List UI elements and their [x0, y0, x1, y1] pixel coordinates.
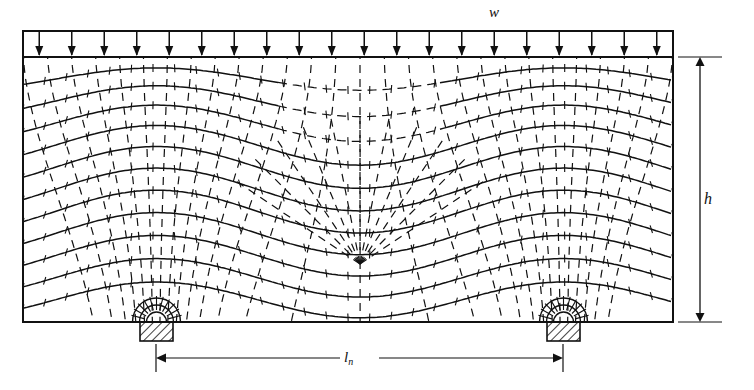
- trajectory-tick: [87, 70, 88, 78]
- trajectory-tick: [196, 213, 198, 221]
- trajectory-tick: [196, 235, 197, 243]
- trajectory-tick: [391, 205, 392, 213]
- trajectory-tick: [109, 237, 111, 245]
- trajectory-tick: [174, 232, 175, 240]
- load-label: w: [489, 4, 499, 21]
- load-arrows: [35, 32, 661, 56]
- trajectory-tick: [586, 144, 587, 152]
- support-arc: [147, 312, 167, 322]
- trajectory-tick: [456, 76, 457, 84]
- trajectory-tick: [174, 210, 175, 218]
- trajectory-tick: [521, 105, 522, 113]
- trajectory-tick: [608, 67, 609, 75]
- trajectory-tick: [607, 147, 609, 155]
- compression-trajectory: [440, 86, 671, 107]
- trajectory-tick: [304, 308, 306, 316]
- trajectory-tick: [326, 291, 327, 299]
- trajectory-tick: [521, 147, 523, 155]
- trajectory-tick: [607, 105, 608, 113]
- trajectory-tick: [326, 159, 327, 167]
- tension-trajectory: [160, 51, 168, 327]
- trajectory-tick: [586, 256, 587, 264]
- tension-trajectory: [23, 51, 95, 329]
- tension-trajectory: [505, 51, 545, 328]
- trajectory-tick: [412, 108, 413, 116]
- trajectory-tick: [109, 260, 111, 268]
- tension-trajectory: [360, 117, 389, 264]
- tension-trajectory: [199, 51, 264, 327]
- stress-trajectory-figure: [0, 0, 754, 390]
- trajectory-tick: [543, 123, 544, 131]
- tension-trajectory: [456, 51, 521, 327]
- trajectory-tick: [174, 143, 175, 151]
- trajectory-tick: [412, 132, 414, 140]
- trajectory-tick: [131, 256, 132, 264]
- trajectory-tick: [521, 126, 523, 134]
- height-dimension: [678, 57, 722, 322]
- load-band: [23, 31, 673, 57]
- trajectory-tick: [109, 106, 111, 114]
- trajectory-tick: [651, 73, 652, 81]
- trajectory-tick: [174, 102, 175, 110]
- trajectory-tick: [391, 85, 392, 93]
- tension-trajectory: [290, 51, 336, 327]
- trajectory-tick: [326, 248, 327, 256]
- trajectory-tick: [196, 125, 197, 133]
- span-subscript: n: [348, 356, 353, 367]
- trajectory-tick: [66, 73, 67, 81]
- trajectory-tick: [282, 79, 283, 87]
- trajectory-tick: [543, 279, 544, 287]
- trajectory-tick: [109, 127, 111, 135]
- trajectory-tick: [413, 83, 414, 91]
- span-label: ln: [344, 349, 353, 367]
- trajectory-tick: [326, 85, 327, 93]
- trajectory-tick: [326, 204, 327, 212]
- trajectory-tick: [217, 88, 219, 96]
- trajectory-tick: [499, 69, 500, 77]
- trajectory-tick: [196, 281, 197, 289]
- tension-trajectory: [216, 51, 288, 329]
- trajectory-tick: [586, 123, 587, 131]
- tension-trajectory: [235, 181, 360, 264]
- trajectory-tick: [131, 233, 132, 241]
- trajectory-tick: [391, 270, 392, 278]
- trajectory-tick: [326, 312, 327, 320]
- trajectory-tick: [131, 65, 132, 73]
- trajectory-tick: [261, 76, 262, 84]
- trajectory-tick: [196, 105, 197, 113]
- trajectory-tick: [521, 191, 523, 199]
- trajectory-tick: [131, 103, 132, 111]
- trajectory-tick: [196, 258, 197, 266]
- trajectory-tick: [586, 65, 587, 73]
- trajectory-tick: [239, 72, 240, 80]
- trajectory-tick: [131, 83, 132, 91]
- tension-trajectory: [360, 181, 485, 264]
- tension-trajectory: [176, 51, 216, 328]
- trajectory-tick: [586, 210, 587, 218]
- trajectory-tick: [326, 269, 327, 277]
- trajectory-tick: [326, 135, 327, 143]
- trajectory-tick: [434, 80, 435, 88]
- span-dimension: [156, 344, 563, 372]
- tension-trajectory: [408, 51, 477, 330]
- trajectory-tick: [196, 190, 198, 198]
- tension-trajectory: [331, 117, 360, 264]
- trajectory-tick: [196, 85, 197, 93]
- compression-trajectory: [23, 126, 671, 166]
- left-support: [140, 322, 173, 341]
- trajectory-tick: [174, 187, 175, 195]
- trajectory-tick: [412, 287, 414, 295]
- trajectory-tick: [217, 69, 218, 77]
- trajectory-tick: [521, 213, 523, 221]
- trajectory-tick: [131, 144, 132, 152]
- trajectory-field: [22, 51, 674, 330]
- trajectory-tick: [109, 86, 110, 94]
- compression-trajectory: [23, 147, 671, 189]
- trajectory-tick: [543, 102, 544, 110]
- trajectory-tick: [391, 291, 392, 299]
- trajectory-tick: [543, 83, 544, 91]
- tension-trajectory: [553, 51, 561, 327]
- tension-trajectory: [278, 82, 440, 90]
- trajectory-tick: [477, 72, 478, 80]
- trajectory-tick: [391, 159, 392, 167]
